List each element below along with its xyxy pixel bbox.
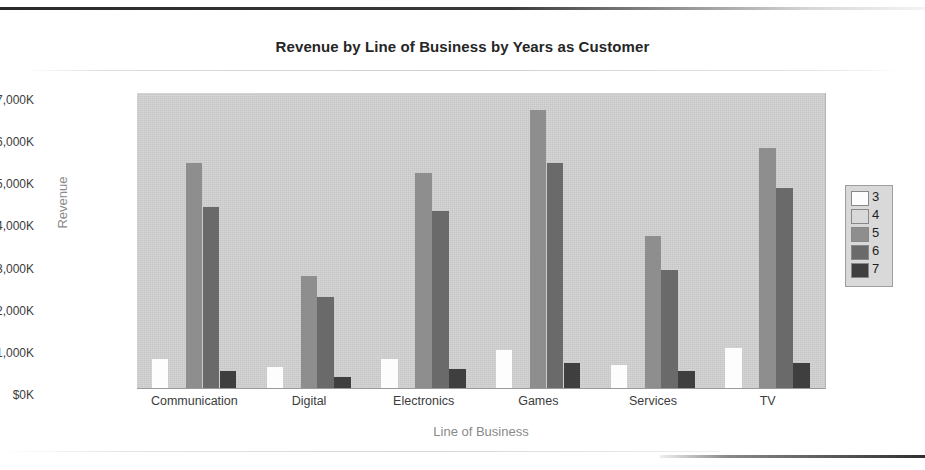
bar [793,363,809,388]
bar [547,163,563,388]
legend-item[interactable]: 5 [851,226,889,241]
bar [301,276,317,388]
y-axis-tick-text: $2,000K [0,304,34,318]
bar [530,110,546,388]
y-axis-tick-text: $3,000K [0,262,34,276]
bar [678,371,694,388]
bar [661,270,677,388]
x-axis-tick-label: TV [760,394,776,408]
bar [152,359,168,389]
x-axis-tick-labels: CommunicationDigitalElectronicsGamesServ… [137,394,825,418]
y-axis-tick-text: $4,000K [0,219,34,233]
x-axis-tick-label: Games [518,394,558,408]
x-axis-tick-label: Electronics [393,394,454,408]
legend-item-label: 6 [872,243,879,258]
x-axis-title: Line of Business [137,424,825,439]
y-axis-tick-text: $6,000K [0,135,34,149]
legend-item-label: 7 [872,261,879,276]
legend-item[interactable]: 7 [851,262,889,277]
x-axis-tick-label: Digital [292,394,327,408]
y-axis-tick-labels: $7,000K$6,000K$5,000K$4,000K$3,000K$2,00… [0,0,137,470]
bar [203,207,219,388]
bar [611,365,627,388]
bar [186,163,202,388]
scan-edge-top [0,7,925,10]
bar [432,211,448,388]
bar [725,348,741,388]
plot-paper-grain [137,93,825,388]
legend-item[interactable]: 6 [851,244,889,259]
chart-title: Revenue by Line of Business by Years as … [0,38,925,55]
legend-swatch-icon [851,209,869,224]
bar [564,363,580,388]
legend-swatch-icon [851,263,869,278]
legend-swatch-icon [851,245,869,260]
plot-area [137,93,826,389]
legend: 34567 [845,185,893,287]
x-axis-tick-label: Communication [151,394,238,408]
legend-swatch-icon [851,191,869,206]
legend-item-label: 3 [872,189,879,204]
bar [776,188,792,388]
y-axis-tick-text: $7,000K [0,93,34,107]
legend-swatch-icon [851,227,869,242]
bar [496,350,512,388]
bar [415,173,431,388]
bar [645,236,661,388]
scan-rule-upper [22,70,902,71]
y-axis-tick-text: $5,000K [0,177,34,191]
bar [449,369,465,388]
revenue-bar-chart: Revenue by Line of Business by Years as … [0,0,925,470]
y-axis-tick-text: $0K [13,388,34,402]
legend-item[interactable]: 3 [851,190,889,205]
y-axis-tick-text: $1,000K [0,346,34,360]
bar [759,148,775,388]
bar [381,359,397,389]
bar [334,377,350,388]
bar [317,297,333,388]
bar [267,367,283,388]
bar [220,371,236,388]
legend-item-label: 4 [872,207,879,222]
legend-item[interactable]: 4 [851,208,889,223]
legend-item-label: 5 [872,225,879,240]
x-axis-tick-label: Services [629,394,677,408]
scan-edge-bottom [660,455,925,458]
